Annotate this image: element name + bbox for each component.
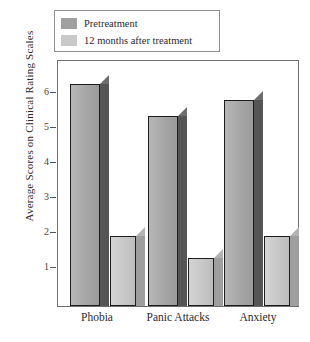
x-axis-label-panic-attacks: Panic Attacks bbox=[137, 311, 219, 323]
legend-item-pretreatment: Pretreatment bbox=[61, 15, 219, 32]
bar-posttreatment-anxiety bbox=[264, 236, 290, 306]
legend-label-posttreatment: 12 months after treatment bbox=[84, 35, 192, 46]
bar-top-face bbox=[178, 107, 187, 116]
bar-top-face bbox=[136, 227, 145, 236]
y-tick-label-4: 4 bbox=[27, 157, 49, 167]
bar-front-face bbox=[110, 236, 136, 306]
y-tick-label-5: 5 bbox=[27, 122, 49, 132]
bar-front-face bbox=[188, 258, 214, 306]
x-axis-label-phobia: Phobia bbox=[58, 311, 136, 323]
y-tick-label-3: 3 bbox=[27, 192, 49, 202]
legend-swatch-posttreatment bbox=[61, 35, 77, 46]
bar-pretreatment-phobia bbox=[70, 84, 100, 306]
bar-front-face bbox=[264, 236, 290, 306]
bar-posttreatment-panic-attacks bbox=[188, 258, 214, 306]
y-tick-label-1: 1 bbox=[27, 262, 49, 272]
bar-posttreatment-phobia bbox=[110, 236, 136, 306]
bar-side-face bbox=[100, 84, 109, 306]
y-tick-label-6: 6 bbox=[27, 87, 49, 97]
y-tick-mark-2 bbox=[50, 232, 56, 233]
bar-front-face bbox=[70, 84, 100, 306]
y-tick-mark-4 bbox=[50, 162, 56, 163]
bar-side-face bbox=[136, 236, 145, 306]
y-tick-mark-1 bbox=[50, 267, 56, 268]
bar-side-face bbox=[178, 116, 187, 306]
bar-top-face bbox=[290, 227, 299, 236]
figure-bar-chart: Pretreatment 12 months after treatment A… bbox=[0, 0, 310, 342]
bar-side-face bbox=[254, 100, 263, 306]
legend-swatch-pretreatment bbox=[61, 18, 77, 29]
bar-series-container bbox=[58, 61, 298, 306]
bar-top-face bbox=[100, 75, 109, 84]
y-tick-mark-5 bbox=[50, 127, 56, 128]
bar-pretreatment-panic-attacks bbox=[148, 116, 178, 306]
bar-front-face bbox=[148, 116, 178, 306]
x-axis-label-anxiety: Anxiety bbox=[220, 311, 296, 323]
figure-caption bbox=[6, 331, 126, 339]
y-tick-mark-6 bbox=[50, 92, 56, 93]
bar-side-face bbox=[214, 258, 223, 306]
legend-label-pretreatment: Pretreatment bbox=[84, 18, 138, 29]
plot-area bbox=[57, 60, 299, 307]
bar-top-face bbox=[214, 249, 223, 258]
y-tick-mark-3 bbox=[50, 197, 56, 198]
legend-item-posttreatment: 12 months after treatment bbox=[61, 32, 219, 49]
bar-top-face bbox=[254, 91, 263, 100]
y-tick-label-2: 2 bbox=[27, 227, 49, 237]
y-axis: 6 5 4 3 2 1 bbox=[0, 55, 60, 342]
bar-pretreatment-anxiety bbox=[224, 100, 254, 306]
bar-front-face bbox=[224, 100, 254, 306]
chart-legend: Pretreatment 12 months after treatment bbox=[54, 10, 220, 52]
bar-side-face bbox=[290, 236, 299, 306]
